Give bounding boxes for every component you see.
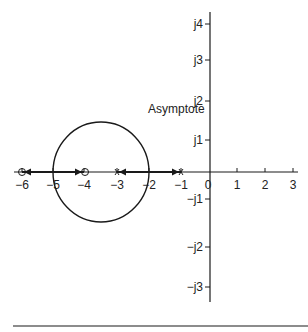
x-label: 3 — [290, 178, 297, 192]
y-label: j4 — [193, 17, 204, 31]
x-label: −1 — [174, 178, 188, 192]
x-label: 0 — [205, 178, 212, 192]
x-label: −4 — [77, 178, 91, 192]
imaginary-axis-labels: j4 j3 j2 j1 −j1 −j2 −j3 — [187, 17, 204, 294]
y-label: j3 — [193, 53, 204, 67]
real-axis-labels: −6 −5 −4 −3 −2 −1 0 1 2 3 — [15, 178, 297, 192]
x-label: −6 — [15, 178, 29, 192]
x-label: −2 — [142, 178, 156, 192]
imaginary-axis-ticks — [205, 24, 210, 287]
y-label: −j3 — [187, 280, 204, 294]
x-label: 1 — [234, 178, 241, 192]
x-label: −3 — [110, 178, 124, 192]
y-label: j1 — [193, 133, 204, 147]
y-label: −j1 — [187, 192, 204, 206]
root-locus-plot: −6 −5 −4 −3 −2 −1 0 1 2 3 j4 j3 j2 j1 −j… — [0, 0, 308, 332]
x-label: 2 — [262, 178, 269, 192]
asymptote-label: Asymptote — [148, 102, 205, 116]
y-label: −j2 — [187, 240, 204, 254]
